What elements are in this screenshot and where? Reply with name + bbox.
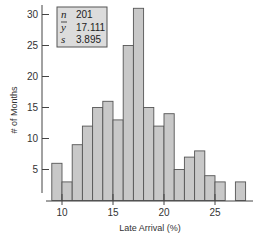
histogram-bar	[174, 170, 184, 201]
histogram-chart: 51015202530 10152025 Late Arrival (%) # …	[0, 0, 261, 240]
x-tick-label: 15	[107, 207, 119, 218]
stat-mean-value: 17.111	[76, 22, 106, 33]
stats-box: n 201 y 17.111 s 3.895	[57, 7, 107, 47]
histogram-bar	[52, 163, 62, 200]
stat-sd-symbol: s	[61, 33, 65, 45]
y-tick-label: 15	[27, 102, 39, 113]
stat-mean-symbol: y	[60, 21, 66, 33]
histogram-bar	[123, 46, 133, 201]
x-tick-label: 25	[209, 207, 221, 218]
y-tick-label: 5	[32, 164, 38, 175]
x-axis-title: Late Arrival (%)	[119, 223, 181, 233]
stat-sd-value: 3.895	[76, 34, 101, 45]
y-tick-label: 30	[27, 9, 39, 20]
histogram-bar	[103, 101, 113, 200]
y-tick-label: 25	[27, 40, 39, 51]
histogram-bar	[235, 182, 245, 201]
stat-n-symbol: n	[61, 8, 67, 20]
y-axis-ticks: 51015202530	[27, 9, 49, 175]
x-tick-label: 10	[56, 207, 68, 218]
stat-n-value: 201	[76, 9, 93, 20]
histogram-bar	[72, 145, 82, 201]
histogram-bar	[195, 151, 205, 201]
histogram-bar	[82, 126, 92, 200]
histogram-bar	[205, 176, 215, 201]
y-axis-title: # of Months	[9, 86, 19, 134]
histogram-bar	[144, 108, 154, 201]
histogram-bar	[133, 8, 143, 200]
x-tick-label: 20	[158, 207, 170, 218]
y-tick-label: 20	[27, 71, 39, 82]
histogram-bar	[62, 182, 72, 201]
histogram-bar	[93, 108, 103, 201]
histogram-bar	[215, 182, 225, 201]
histogram-bar	[113, 120, 123, 201]
histogram-bar	[164, 114, 174, 201]
y-tick-label: 10	[27, 133, 39, 144]
histogram-bar	[154, 126, 164, 200]
histogram-bar	[184, 157, 194, 200]
